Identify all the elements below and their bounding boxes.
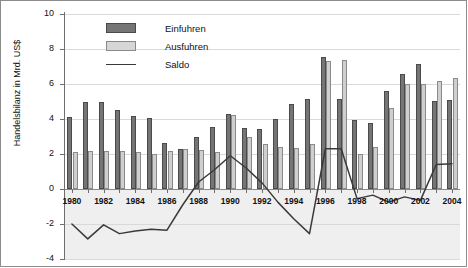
x-tick-1992 bbox=[262, 189, 263, 193]
y-tick-10 bbox=[60, 14, 65, 15]
x-axis-label: 2002 bbox=[403, 196, 437, 206]
x-tick-1998 bbox=[357, 189, 358, 193]
y-tick-label: 2 bbox=[14, 149, 54, 158]
x-axis-label: 1990 bbox=[213, 196, 247, 206]
y-tick-label: 0 bbox=[14, 184, 54, 193]
y-tick-2 bbox=[60, 154, 65, 155]
gridline--4 bbox=[64, 259, 460, 260]
x-tick-1983 bbox=[119, 189, 120, 193]
x-tick-1991 bbox=[246, 189, 247, 193]
y-tick-8 bbox=[60, 49, 65, 50]
chart-legend: Einfuhren Ausfuhren Saldo bbox=[106, 20, 208, 74]
y-tick-label: 10 bbox=[14, 9, 54, 18]
x-axis-label: 1988 bbox=[182, 196, 216, 206]
x-tick-1988 bbox=[199, 189, 200, 193]
x-axis-label: 1984 bbox=[118, 196, 152, 206]
y-tick-label: 8 bbox=[14, 44, 54, 53]
y-tick-label: -2 bbox=[14, 219, 54, 228]
y-tick-0 bbox=[60, 189, 65, 190]
y-tick-6 bbox=[60, 84, 65, 85]
x-tick-1980 bbox=[72, 189, 73, 193]
x-tick-1982 bbox=[104, 189, 105, 193]
legend-label-ausfuhren: Ausfuhren bbox=[165, 41, 208, 52]
x-tick-1981 bbox=[88, 189, 89, 193]
chart-screenshot: Handelsbilanz in Mrd. US$ -4-20246810 19… bbox=[0, 0, 468, 268]
x-tick-1994 bbox=[294, 189, 295, 193]
x-tick-1997 bbox=[341, 189, 342, 193]
legend-item-saldo: Saldo bbox=[106, 56, 208, 72]
x-tick-2000 bbox=[389, 189, 390, 193]
legend-swatch-saldo bbox=[106, 64, 136, 65]
x-axis-label: 1992 bbox=[245, 196, 279, 206]
legend-swatch-ausfuhren bbox=[106, 41, 136, 51]
y-tick--2 bbox=[60, 224, 65, 225]
x-axis-label: 2004 bbox=[435, 196, 468, 206]
y-tick-4 bbox=[60, 119, 65, 120]
x-tick-1986 bbox=[167, 189, 168, 193]
legend-label-einfuhren: Einfuhren bbox=[165, 23, 206, 34]
x-tick-1984 bbox=[135, 189, 136, 193]
x-axis-label: 1980 bbox=[55, 196, 89, 206]
x-axis-label: 2000 bbox=[372, 196, 406, 206]
x-tick-2002 bbox=[420, 189, 421, 193]
x-tick-1995 bbox=[310, 189, 311, 193]
x-axis-label: 1998 bbox=[340, 196, 374, 206]
x-tick-1987 bbox=[183, 189, 184, 193]
x-axis-label: 1986 bbox=[150, 196, 184, 206]
x-tick-2003 bbox=[436, 189, 437, 193]
x-axis-label: 1982 bbox=[87, 196, 121, 206]
y-tick-label: 6 bbox=[14, 79, 54, 88]
x-tick-2004 bbox=[452, 189, 453, 193]
y-tick-label: -4 bbox=[14, 254, 54, 263]
x-tick-1999 bbox=[373, 189, 374, 193]
legend-item-einfuhren: Einfuhren bbox=[106, 20, 208, 36]
legend-label-saldo: Saldo bbox=[165, 59, 189, 70]
x-tick-1996 bbox=[325, 189, 326, 193]
x-axis-label: 1994 bbox=[277, 196, 311, 206]
x-tick-2001 bbox=[405, 189, 406, 193]
legend-swatch-einfuhren bbox=[106, 23, 136, 33]
x-tick-1989 bbox=[214, 189, 215, 193]
x-tick-1993 bbox=[278, 189, 279, 193]
x-axis-label: 1996 bbox=[308, 196, 342, 206]
y-tick-label: 4 bbox=[14, 114, 54, 123]
x-tick-1985 bbox=[151, 189, 152, 193]
legend-item-ausfuhren: Ausfuhren bbox=[106, 38, 208, 54]
y-tick--4 bbox=[60, 259, 65, 260]
x-tick-1990 bbox=[230, 189, 231, 193]
